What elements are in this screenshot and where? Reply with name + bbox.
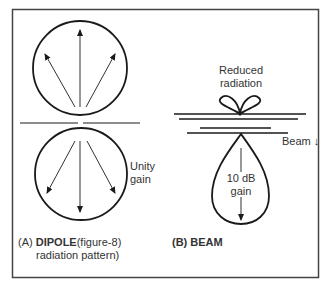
beam-back-lobes [220,96,261,114]
gain-line1: 10 dB [221,172,261,185]
dipole-top-lobe [33,21,127,115]
beam-direction-label: Beam ↓ [282,135,319,148]
unity-gain-line1: Unity [130,160,155,173]
unity-gain-label: Unity gain [130,160,155,186]
caption-a: (A) DIPOLE(figure-8) radiation pattern) [18,236,121,262]
reduced-radiation-line1: Reduced [210,64,272,77]
dipole-bottom-lobe [35,128,127,220]
caption-a-line2: radiation pattern) [18,249,121,262]
reduced-radiation-line2: radiation [210,77,272,90]
unity-gain-line2: gain [130,173,155,186]
caption-a-rest: (figure-8) [77,236,122,248]
gain-label: 10 dB gain [221,172,261,198]
caption-b: (B) BEAM [172,236,223,249]
caption-a-prefix: (A) [18,236,33,248]
reduced-radiation-label: Reduced radiation [210,64,272,90]
caption-a-title: DIPOLE [36,236,77,248]
beam-elements [174,114,306,133]
gain-line2: gain [221,185,261,198]
